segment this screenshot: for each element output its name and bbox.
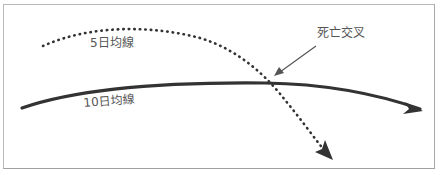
death-cross-label: 死亡交叉: [317, 27, 365, 39]
arrow-down-left-icon: [274, 67, 284, 76]
ma5-line: [43, 29, 324, 150]
ma5-label: 5日均線: [90, 37, 134, 49]
ma10-line: [22, 83, 420, 109]
diagram-canvas: [0, 0, 440, 175]
pointer-arrow-line: [280, 46, 316, 72]
